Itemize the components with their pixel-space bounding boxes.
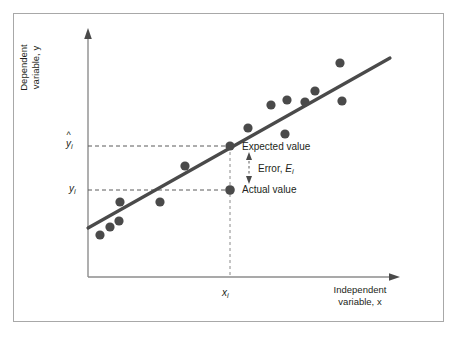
- error-label-prefix: Error,: [258, 163, 285, 174]
- data-point: [115, 197, 124, 206]
- data-point: [155, 197, 164, 206]
- x-value-tick-label: xi: [222, 287, 229, 300]
- data-point: [266, 100, 275, 109]
- error-label: Error, Ei: [258, 163, 294, 176]
- actual-value-label: Actual value: [242, 184, 296, 195]
- y-axis-title-line1: Dependent: [18, 44, 29, 90]
- y-actual-tick-label: yi: [69, 183, 76, 196]
- y-actual-subscript: i: [74, 187, 76, 196]
- y-axis-title: Dependent variable, y: [18, 25, 41, 111]
- data-point: [335, 58, 344, 67]
- error-symbol: E: [285, 163, 292, 174]
- y-expected-subscript: i: [71, 142, 73, 151]
- data-point: [337, 96, 346, 105]
- data-point: [310, 86, 319, 95]
- actual-value-point: [225, 185, 235, 195]
- error-arrow: [246, 152, 252, 184]
- x-axis-title-line2: variable, x: [338, 296, 381, 307]
- data-point: [280, 129, 289, 138]
- y-axis: [84, 28, 92, 277]
- data-point: [300, 97, 309, 106]
- hat-accent-icon: ^: [66, 133, 71, 138]
- regression-line: [88, 58, 390, 228]
- data-point: [243, 123, 252, 132]
- x-axis-title-line1: Independent: [334, 284, 387, 295]
- x-value-subscript: i: [227, 291, 229, 300]
- data-point: [114, 216, 123, 225]
- x-axis-title: Independent variable, x: [318, 284, 402, 307]
- y-axis-title-line2: variable, y: [29, 46, 40, 89]
- figure-page: Dependent variable, y Independent variab…: [0, 0, 458, 337]
- y-expected-tick-label: ^ y i: [66, 138, 73, 151]
- data-point: [105, 222, 114, 231]
- data-point: [282, 95, 291, 104]
- error-subscript: i: [292, 167, 294, 176]
- expected-value-point: [225, 141, 234, 150]
- data-point: [180, 161, 189, 170]
- expected-value-label: Expected value: [242, 141, 310, 152]
- data-point: [95, 230, 104, 239]
- x-axis: [88, 273, 400, 281]
